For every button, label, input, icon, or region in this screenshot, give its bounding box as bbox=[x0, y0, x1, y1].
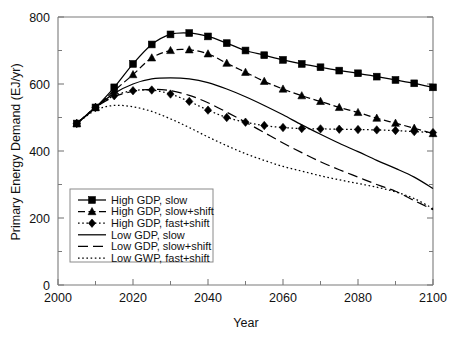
x-tick-label: 2060 bbox=[269, 291, 297, 305]
data-point-square bbox=[411, 80, 418, 87]
data-point-diamond bbox=[186, 97, 193, 105]
data-point-triangle bbox=[185, 46, 193, 53]
data-point-triangle bbox=[167, 46, 175, 53]
data-point-triangle bbox=[392, 119, 400, 126]
y-tick-label: 400 bbox=[29, 145, 50, 159]
data-point-triangle bbox=[260, 77, 268, 84]
data-point-square bbox=[205, 33, 212, 40]
chart-figure: 2000202020402060208021000200400600800 Hi… bbox=[0, 0, 459, 342]
data-point-square bbox=[261, 52, 268, 59]
x-tick-label: 2100 bbox=[419, 291, 447, 305]
series-line-4 bbox=[77, 78, 433, 189]
data-point-triangle bbox=[223, 59, 231, 66]
data-point-square bbox=[89, 197, 96, 204]
data-point-diamond bbox=[261, 121, 268, 129]
data-point-diamond bbox=[317, 125, 324, 133]
primary-energy-demand-chart: 2000202020402060208021000200400600800 Hi… bbox=[0, 0, 459, 342]
legend-label-6: Low GWP, fast+shift bbox=[111, 252, 210, 264]
series-4 bbox=[77, 78, 433, 189]
y-tick-label: 0 bbox=[43, 279, 50, 293]
y-tick-label: 600 bbox=[29, 78, 50, 92]
series-2 bbox=[73, 46, 437, 137]
series-line-3 bbox=[77, 90, 433, 133]
data-point-square bbox=[317, 64, 324, 71]
data-point-square bbox=[148, 41, 155, 48]
data-point-diamond bbox=[392, 126, 399, 134]
series-group bbox=[73, 30, 437, 210]
x-tick-label: 2040 bbox=[194, 291, 222, 305]
data-point-diamond bbox=[373, 126, 380, 134]
data-point-square bbox=[280, 56, 287, 63]
data-point-triangle bbox=[242, 68, 250, 75]
data-point-triangle bbox=[279, 85, 287, 92]
data-point-square bbox=[242, 47, 249, 54]
legend-label-2: High GDP, slow+shift bbox=[111, 205, 214, 217]
data-point-square bbox=[167, 31, 174, 38]
x-tick-label: 2020 bbox=[119, 291, 147, 305]
y-tick-label: 200 bbox=[29, 212, 50, 226]
x-tick-label: 2080 bbox=[344, 291, 372, 305]
chart-legend: High GDP, slowHigh GDP, slow+shiftHigh G… bbox=[70, 189, 214, 264]
x-axis-title: Year bbox=[233, 316, 258, 330]
data-point-square bbox=[223, 40, 230, 47]
data-point-square bbox=[392, 77, 399, 84]
legend-label-3: High GDP, fast+shift bbox=[111, 217, 210, 229]
data-point-square bbox=[186, 30, 193, 37]
data-point-diamond bbox=[223, 113, 230, 121]
legend-label-5: Low GDP, slow+shift bbox=[111, 240, 211, 252]
data-point-square bbox=[298, 61, 305, 68]
series-3 bbox=[73, 86, 436, 137]
y-tick-label: 800 bbox=[29, 11, 50, 25]
data-point-triangle bbox=[148, 54, 156, 61]
data-point-triangle bbox=[204, 50, 212, 57]
legend-label-1: High GDP, slow bbox=[111, 194, 187, 206]
data-point-square bbox=[355, 70, 362, 77]
data-point-diamond bbox=[354, 125, 361, 133]
data-point-square bbox=[373, 73, 380, 80]
y-axis-title: Primary Energy Demand (EJ/yr) bbox=[9, 63, 23, 240]
legend-label-4: Low GDP, slow bbox=[111, 229, 185, 241]
data-point-square bbox=[336, 67, 343, 74]
data-point-diamond bbox=[336, 125, 343, 133]
data-point-diamond bbox=[279, 123, 286, 131]
x-tick-label: 2000 bbox=[44, 291, 72, 305]
data-point-square bbox=[430, 84, 437, 91]
data-point-square bbox=[130, 61, 137, 68]
data-point-diamond bbox=[204, 106, 211, 114]
